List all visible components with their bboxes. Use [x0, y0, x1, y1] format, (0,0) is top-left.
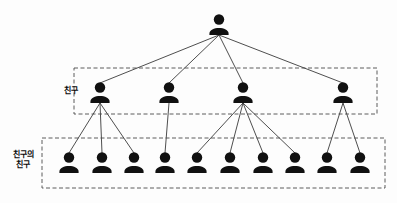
node-friend-of-friend-person-icon[interactable] [285, 152, 304, 173]
person-head-icon [160, 152, 170, 162]
person-body-icon [90, 96, 109, 103]
edge-f4-ff10 [343, 103, 360, 153]
node-friend-of-friend-person-icon[interactable] [59, 152, 78, 173]
node-friend-of-friend-person-icon[interactable] [350, 152, 369, 173]
person-head-icon [164, 82, 174, 92]
person-head-icon [290, 152, 300, 162]
person-head-icon [214, 14, 224, 24]
node-friend-of-friend-person-icon[interactable] [124, 152, 143, 173]
graph-canvas [0, 0, 397, 203]
person-body-icon [253, 166, 272, 173]
node-root-person-icon[interactable] [209, 14, 228, 35]
node-friend-of-friend-person-icon[interactable] [155, 152, 174, 173]
edge-f1-ff1 [69, 103, 100, 153]
person-body-icon [124, 166, 143, 173]
person-head-icon [192, 152, 202, 162]
person-head-icon [95, 82, 105, 92]
edge-me-f4 [219, 35, 343, 83]
edge-f3-ff7 [243, 103, 263, 153]
node-friend-of-friend-person-icon[interactable] [253, 152, 272, 173]
node-friend-person-icon[interactable] [159, 82, 178, 103]
person-body-icon [187, 166, 206, 173]
person-body-icon [92, 166, 111, 173]
edge-f1-ff2 [100, 103, 102, 153]
edge-me-f2 [169, 35, 219, 83]
tier-label-friend: 친구 [56, 86, 86, 96]
edge-f1-ff3 [100, 103, 134, 153]
person-body-icon [317, 166, 336, 173]
node-friend-of-friend-person-icon[interactable] [220, 152, 239, 173]
edge-f3-ff8 [243, 103, 295, 153]
person-body-icon [350, 166, 369, 173]
person-body-icon [233, 96, 252, 103]
person-body-icon [209, 28, 228, 35]
person-head-icon [64, 152, 74, 162]
edge-f2-ff4 [165, 103, 169, 153]
node-friend-of-friend-person-icon[interactable] [92, 152, 111, 173]
person-head-icon [355, 152, 365, 162]
person-head-icon [258, 152, 268, 162]
friend-of-friend-box [42, 138, 385, 188]
person-head-icon [322, 152, 332, 162]
edge-me-f3 [219, 35, 243, 83]
node-friend-person-icon[interactable] [333, 82, 352, 103]
node-friend-of-friend-person-icon[interactable] [317, 152, 336, 173]
person-head-icon [97, 152, 107, 162]
network-diagram: 친구 친구의 친구 [0, 0, 397, 203]
person-body-icon [220, 166, 239, 173]
node-friend-person-icon[interactable] [90, 82, 109, 103]
node-friend-person-icon[interactable] [233, 82, 252, 103]
node-layer [59, 14, 369, 173]
person-body-icon [333, 96, 352, 103]
node-friend-of-friend-person-icon[interactable] [187, 152, 206, 173]
edge-me-f1 [100, 35, 219, 83]
tier-label-friend-of-friend: 친구의 친구 [6, 150, 40, 170]
person-head-icon [129, 152, 139, 162]
person-head-icon [238, 82, 248, 92]
edge-layer [69, 35, 360, 153]
person-head-icon [338, 82, 348, 92]
person-body-icon [155, 166, 174, 173]
person-body-icon [159, 96, 178, 103]
person-head-icon [225, 152, 235, 162]
person-body-icon [59, 166, 78, 173]
edge-f4-ff9 [327, 103, 343, 153]
person-body-icon [285, 166, 304, 173]
